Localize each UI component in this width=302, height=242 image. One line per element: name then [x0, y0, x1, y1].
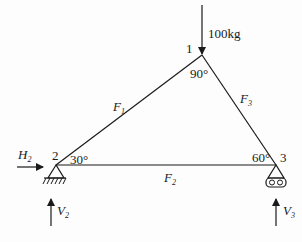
truss-diagram: 100kg 1 90° F1 F3 F2 2 30° H2 V2 3 60°: [0, 0, 302, 242]
node-3-label: 3: [280, 150, 287, 165]
member-f3-label: F3: [239, 91, 252, 108]
reaction-v2-label: V2: [57, 203, 69, 220]
node-2-angle: 30°: [70, 152, 88, 167]
reaction-v3-label: V3: [283, 203, 295, 220]
member-f2-label: F2: [163, 170, 176, 187]
pin-support-icon: [43, 165, 66, 184]
node-2-label: 2: [52, 148, 59, 163]
node-1-label: 1: [186, 41, 193, 56]
node-3-angle: 60°: [252, 150, 270, 165]
node-1-angle: 90°: [190, 66, 208, 81]
member-f3: [202, 55, 276, 165]
member-f1: [56, 55, 202, 165]
member-f1-label: F1: [112, 99, 125, 116]
load-label: 100kg: [208, 26, 241, 41]
roller-support-icon: [266, 165, 286, 187]
reaction-h2-label: H2: [17, 147, 31, 164]
